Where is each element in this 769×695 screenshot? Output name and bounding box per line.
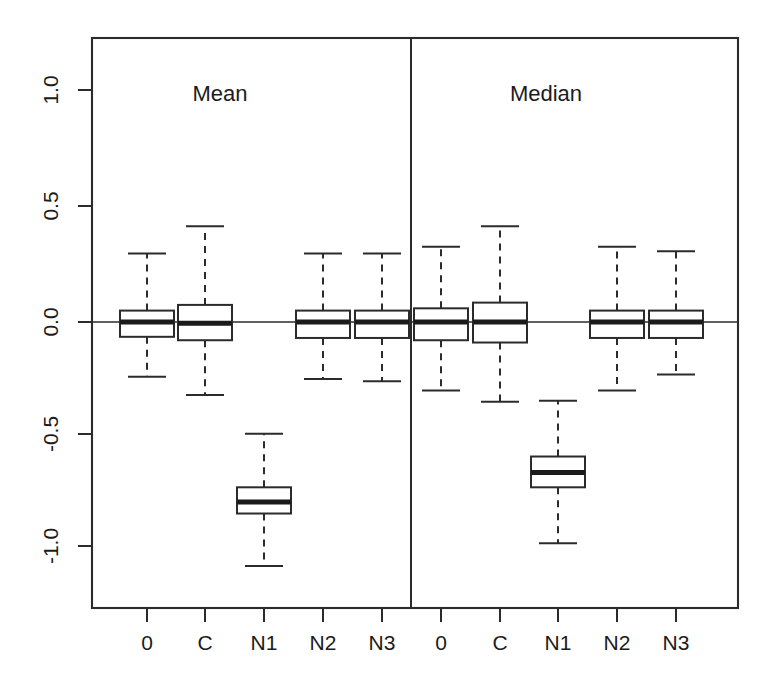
- boxplot-median-n3: [649, 251, 703, 374]
- panel-label-median: Median: [510, 81, 582, 106]
- x-tick-label: N1: [251, 631, 278, 654]
- boxplot-mean-0: [120, 254, 174, 377]
- boxplot-median-n2: [590, 247, 644, 391]
- boxplot-median-n1: [531, 401, 585, 543]
- boxplot-figure: 1.00.50.0-0.5-1.0 0CN1N2N30CN1N2N3 MeanM…: [0, 0, 769, 695]
- x-tick-label: 0: [141, 631, 153, 654]
- x-tick-label: N3: [663, 631, 690, 654]
- boxplot-median-0: [414, 247, 468, 391]
- boxplot-mean-c: [178, 226, 232, 395]
- boxplot-mean-n3: [355, 254, 409, 382]
- x-tick-label: N2: [310, 631, 337, 654]
- boxplot-median-c: [473, 226, 527, 402]
- boxplot-mean-n1: [237, 434, 291, 566]
- y-tick-label: 0.5: [39, 191, 62, 220]
- plot-canvas: 1.00.50.0-0.5-1.0 0CN1N2N30CN1N2N3 MeanM…: [0, 0, 769, 695]
- panel-label-mean: Mean: [192, 81, 247, 106]
- x-tick-label: C: [197, 631, 212, 654]
- x-axis-tick-labels: 0CN1N2N30CN1N2N3: [141, 631, 689, 654]
- x-tick-label: 0: [435, 631, 447, 654]
- x-tick-label: C: [492, 631, 507, 654]
- y-tick-label: -0.5: [39, 416, 62, 452]
- y-tick-label: 0.0: [39, 307, 62, 336]
- y-axis-tick-labels: 1.00.50.0-0.5-1.0: [39, 75, 62, 564]
- x-tick-label: N2: [604, 631, 631, 654]
- x-tick-label: N3: [369, 631, 396, 654]
- axis-ticks: [78, 90, 676, 622]
- panel-labels: MeanMedian: [192, 81, 582, 106]
- y-tick-label: 1.0: [39, 75, 62, 104]
- x-tick-label: N1: [545, 631, 572, 654]
- boxplot-mean-n2: [296, 254, 350, 379]
- y-tick-label: -1.0: [39, 528, 62, 564]
